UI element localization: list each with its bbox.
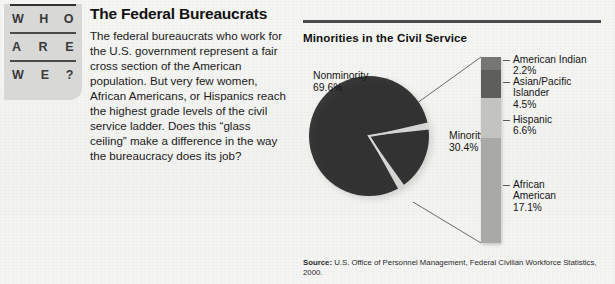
- chart-top-rule: [303, 20, 601, 23]
- who-letter: R: [39, 40, 49, 54]
- bar-segment-american-indian: [481, 57, 501, 71]
- who-letter: E: [41, 68, 50, 82]
- bar-segment-asian-pacific: [481, 70, 501, 98]
- source-label: Source:: [303, 258, 332, 267]
- who-row-1: W H O: [10, 4, 76, 32]
- who-letter: H: [39, 12, 49, 26]
- source-text: U.S. Office of Personnel Management, Fed…: [303, 258, 597, 277]
- bar-segment-african-american: [481, 138, 501, 243]
- article-body: The federal bureaucrats who work for the…: [90, 28, 286, 164]
- who-row-2: A R E: [10, 32, 76, 60]
- pie-shadow: [312, 79, 432, 199]
- source-citation: Source: U.S. Office of Personnel Managem…: [303, 258, 603, 278]
- tick-asian-pacific: [503, 82, 510, 83]
- pie-chart: Nonminority 69.6%: [307, 72, 435, 200]
- who-letter: E: [65, 40, 74, 54]
- chart-panel: Minorities in the Civil Service Nonminor…: [303, 20, 611, 278]
- pie-label-nonminority: Nonminority 69.6%: [313, 70, 368, 95]
- who-letter: W: [12, 12, 24, 26]
- bar-labels: American Indian 2.2% Asian/Pacific Islan…: [509, 54, 611, 250]
- bar-label-asian-pacific: Asian/Pacific Islander 4.5%: [513, 76, 571, 111]
- tick-african-american: [503, 185, 510, 186]
- tick-american-indian: [503, 60, 510, 61]
- who-letter: W: [12, 68, 24, 82]
- who-letter: A: [12, 40, 22, 54]
- bar-label-hispanic: Hispanic 6.6%: [513, 114, 552, 137]
- stacked-bar: [481, 57, 501, 243]
- chart-stage: Nonminority 69.6% Minority 30.4% America…: [303, 54, 611, 254]
- who-row-3: W E ?: [10, 60, 76, 88]
- bar-segment-hispanic: [481, 98, 501, 138]
- who-letter: ?: [66, 68, 74, 82]
- who-letter: O: [64, 12, 74, 26]
- chart-title: Minorities in the Civil Service: [303, 31, 611, 44]
- pie-label-minority: Minority 30.4%: [449, 130, 485, 155]
- bar-label-american-indian: American Indian 2.2%: [513, 54, 587, 77]
- tick-hispanic: [503, 120, 510, 121]
- article-column: The Federal Bureaucrats The federal bure…: [90, 6, 286, 163]
- bar-label-african-american: African American 17.1%: [513, 179, 556, 214]
- who-are-we-box: W H O A R E W E ?: [4, 4, 82, 100]
- article-title: The Federal Bureaucrats: [90, 6, 286, 23]
